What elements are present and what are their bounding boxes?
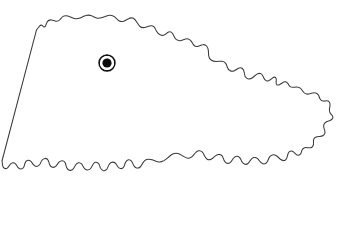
location-marker[interactable] — [98, 54, 116, 72]
country-outline-dominican-republic — [2, 15, 333, 171]
map-svg — [0, 0, 337, 233]
location-marker-dot — [102, 58, 111, 67]
map-figure — [0, 0, 337, 233]
